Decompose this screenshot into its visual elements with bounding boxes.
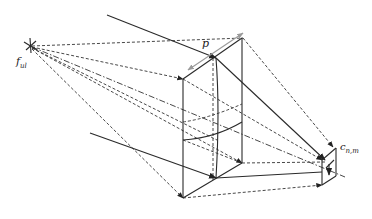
ray-front-top xyxy=(32,47,183,79)
focal-point-label: ful xyxy=(16,56,27,70)
ray-incoming-bottom xyxy=(90,133,216,178)
projection-diagram xyxy=(0,0,372,219)
focal-point-marker xyxy=(24,38,37,53)
thickness-symbol: p xyxy=(202,37,209,50)
target-cell-label: cn,m xyxy=(340,142,359,155)
projection-rays xyxy=(32,38,345,198)
target-cell-subscript: n,m xyxy=(346,147,359,155)
ray-incoming-top xyxy=(107,15,216,58)
ray-top xyxy=(32,38,243,46)
thickness-label: p xyxy=(202,38,209,49)
ray-mid xyxy=(32,48,242,163)
optical-axis xyxy=(32,47,345,177)
target-cell xyxy=(322,148,336,185)
ray-bottom xyxy=(32,49,183,198)
ray-refracted-top xyxy=(216,58,325,160)
ray-inner xyxy=(32,48,217,140)
focal-point-subscript: ul xyxy=(20,62,27,70)
thickness-dimension xyxy=(188,33,243,70)
slab-curved-surface xyxy=(216,58,218,178)
